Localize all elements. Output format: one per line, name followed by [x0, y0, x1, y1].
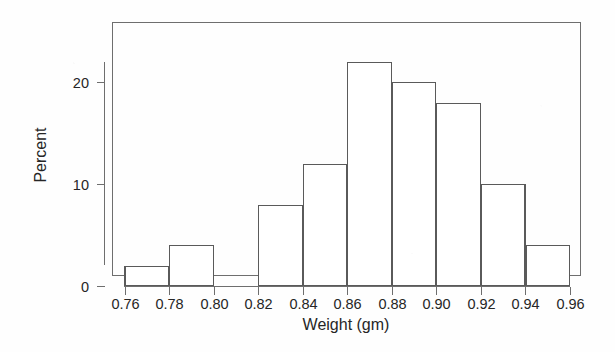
- histogram-bar: [125, 266, 169, 286]
- histogram-bar: [392, 83, 436, 286]
- histogram-bar: [437, 103, 481, 286]
- bars-group: [125, 63, 570, 286]
- x-tick-label: 0.84: [289, 296, 317, 312]
- x-tick-label: 0.76: [111, 296, 139, 312]
- x-tick-label: 0.88: [378, 296, 406, 312]
- y-tick-label: 20: [73, 75, 89, 91]
- histogram-figure: 0.760.780.800.820.840.860.880.900.920.94…: [0, 0, 615, 352]
- y-tick-label: 10: [73, 177, 89, 193]
- histogram-bar: [526, 246, 570, 286]
- x-tick-label: 0.82: [244, 296, 272, 312]
- histogram-canvas: 0.760.780.800.820.840.860.880.900.920.94…: [0, 0, 615, 352]
- x-axis-title: Weight (gm): [303, 316, 390, 333]
- histogram-bar: [481, 185, 525, 286]
- y-axis-title: Percent: [32, 127, 49, 183]
- histogram-bar: [170, 246, 214, 286]
- y-tick-label: 0: [81, 279, 89, 295]
- x-tick-label: 0.86: [333, 296, 361, 312]
- x-tick-label: 0.90: [422, 296, 450, 312]
- histogram-bar: [259, 205, 303, 286]
- histogram-bar: [303, 164, 347, 286]
- x-ticks-group: 0.760.780.800.820.840.860.880.900.920.94…: [111, 287, 584, 313]
- x-tick-label: 0.92: [467, 296, 495, 312]
- x-tick-label: 0.94: [511, 296, 539, 312]
- x-tick-label: 0.96: [556, 296, 584, 312]
- y-ticks-group: 01020: [73, 75, 105, 295]
- x-tick-label: 0.78: [155, 296, 183, 312]
- x-tick-label: 0.80: [200, 296, 228, 312]
- histogram-bar: [348, 63, 392, 286]
